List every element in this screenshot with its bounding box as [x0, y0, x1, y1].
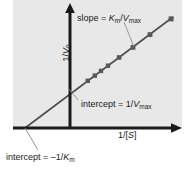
slope-vmax-subscript: max: [129, 17, 141, 24]
data-point: [131, 45, 136, 50]
slope-vmax-symbol: V: [123, 13, 129, 23]
slope-prefix-text: slope =: [77, 13, 109, 23]
y-axis-arrowhead: [65, 3, 75, 13]
y-intercept-prefix-text: intercept = 1/: [81, 99, 133, 109]
y-intercept-annotation-label: intercept = 1/Vmax: [81, 100, 152, 109]
data-point: [169, 16, 174, 21]
y-axis-velocity-symbol: V: [61, 48, 71, 54]
y-axis-label-prefix: 1/: [61, 54, 71, 62]
x-axis-arrowhead: [171, 123, 182, 133]
data-point: [86, 79, 90, 83]
slope-km-symbol: K: [109, 13, 115, 23]
plot-overlay: [0, 0, 185, 174]
data-point: [106, 64, 110, 68]
data-point: [148, 32, 153, 37]
slope-leader-line: [124, 22, 134, 47]
x-axis-label-prefix: 1/[: [118, 130, 128, 140]
data-point: [117, 55, 122, 60]
y-intercept-vmax-subscript: max: [139, 103, 151, 110]
x-intercept-annotation-label: intercept = –1/Km: [6, 153, 75, 162]
y-axis-label: 1/V0: [61, 35, 71, 71]
x-intercept-leader-line: [25, 128, 38, 150]
x-intercept-km-subscript: m: [69, 156, 74, 163]
data-point: [99, 69, 103, 73]
y-axis-velocity-subscript: 0: [65, 44, 72, 48]
data-point: [93, 73, 97, 77]
x-axis-label: 1/[S]: [118, 131, 137, 140]
slope-km-subscript: m: [115, 17, 120, 24]
x-intercept-prefix-text: intercept = –1/: [6, 152, 63, 162]
lineweaver-burk-figure: slope = Km/Vmax intercept = 1/Vmax inter…: [0, 0, 185, 174]
x-axis-label-suffix: ]: [134, 130, 137, 140]
slope-annotation-label: slope = Km/Vmax: [77, 14, 141, 23]
